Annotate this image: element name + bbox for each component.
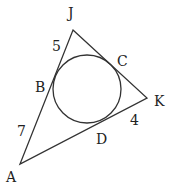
label-point-c: C [117, 54, 128, 68]
length-ab: 7 [17, 124, 26, 138]
length-jb: 5 [52, 39, 61, 53]
label-vertex-k: K [154, 94, 164, 108]
label-vertex-j: J [68, 6, 74, 20]
diagram-canvas [0, 0, 173, 192]
length-kd: 4 [130, 113, 139, 127]
label-vertex-a: A [6, 170, 16, 184]
triangle-jka [20, 30, 147, 164]
label-point-d: D [96, 132, 107, 146]
inscribed-circle [53, 55, 121, 123]
label-point-b: B [35, 80, 45, 94]
